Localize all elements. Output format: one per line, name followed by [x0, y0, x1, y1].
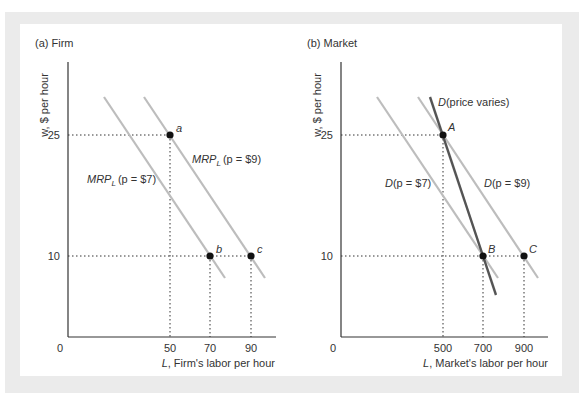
market-chart: (b) Market w, $ per hour A B C D(price v…: [307, 37, 548, 369]
market-x-tick-500: 500: [434, 342, 452, 354]
market-point-C: [520, 252, 527, 259]
firm-guides: [68, 135, 251, 337]
firm-mrp-p7-label: MRPL(p = $7): [87, 173, 156, 188]
market-y-tick-25: 25: [321, 129, 333, 141]
firm-y-tick-10: 10: [48, 250, 60, 262]
market-point-B-label: B: [488, 243, 495, 255]
market-y-tick-10: 10: [321, 250, 333, 262]
firm-x-tick-50: 50: [164, 342, 176, 354]
firm-x-tick-70: 70: [204, 342, 216, 354]
market-d-p7-label: D(p = $7): [385, 177, 431, 189]
firm-chart: (a) Firm w, $ per hour a b c MRPL(p = $9…: [35, 37, 276, 369]
firm-point-c-label: c: [257, 243, 263, 255]
firm-point-a-label: a: [176, 122, 182, 134]
market-point-A: [439, 131, 446, 138]
market-point-C-label: C: [529, 243, 537, 255]
market-point-A-label: A: [447, 121, 455, 133]
firm-title: (a) Firm: [35, 37, 74, 49]
firm-mrp-p9-label: MRPL(p = $9): [192, 153, 261, 168]
firm-point-b-label: b: [216, 243, 222, 255]
labor-demand-figure: (a) Firm w, $ per hour a b c MRPL(p = $9…: [0, 0, 579, 393]
market-origin-label: 0: [330, 342, 336, 354]
firm-x-axis-label: L, Firm's labor per hour: [162, 357, 276, 369]
market-guides: [341, 135, 524, 337]
market-d-price-varies-curve: [430, 97, 496, 295]
market-x-tick-900: 900: [515, 342, 533, 354]
firm-x-tick-90: 90: [245, 342, 257, 354]
firm-point-b: [206, 252, 213, 259]
market-d-price-varies-label: D(price varies): [438, 96, 510, 108]
market-x-axis-label: L, Market's labor per hour: [423, 357, 548, 369]
market-d-p9-label: D(p = $9): [484, 177, 530, 189]
firm-mrp-p9-curve: [144, 97, 265, 278]
firm-mrp-p7-curve: [104, 97, 225, 278]
market-x-tick-700: 700: [474, 342, 492, 354]
firm-point-c: [247, 252, 254, 259]
market-title: (b) Market: [307, 37, 357, 49]
firm-origin-label: 0: [57, 342, 63, 354]
market-point-B: [479, 252, 486, 259]
firm-point-a: [166, 131, 173, 138]
firm-y-tick-25: 25: [48, 129, 60, 141]
